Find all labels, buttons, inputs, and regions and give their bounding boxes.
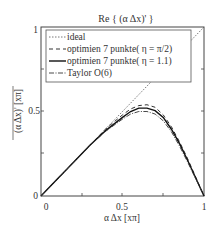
legend-ideal: ideal: [67, 32, 86, 42]
series-line-3: [41, 112, 204, 197]
x-tick-0: 0: [44, 202, 49, 212]
x-tick-1: 1: [202, 202, 207, 212]
x-axis-label: α Δx [xπ]: [104, 213, 140, 223]
legend-opt-11: optimien 7 punkte( η = 1.1): [67, 56, 172, 67]
series-line-2: [41, 108, 204, 196]
ticks: [41, 69, 204, 196]
y-tick-05: 0.5: [28, 106, 40, 116]
chart-title: Re { (α Δx)' }: [98, 13, 153, 25]
legend-taylor: Taylor O(6): [67, 68, 112, 79]
y-tick-0: 0: [33, 191, 38, 201]
y-axis-label: (α Δx)' [xπ]: [13, 89, 24, 133]
y-tick-1: 1: [33, 25, 38, 35]
x-tick-05: 0.5: [116, 202, 128, 212]
series-line-1: [41, 105, 204, 196]
chart: Re { (α Δx)' } ideal optimien 7 punkte( …: [0, 0, 218, 234]
legend: ideal optimien 7 punkte( η = π/2) optimi…: [46, 30, 191, 82]
legend-opt-pi2: optimien 7 punkte( η = π/2): [67, 44, 172, 55]
